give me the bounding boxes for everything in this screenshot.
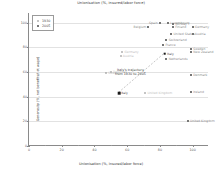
italy-trajectory-annotation: Italy's trajectory from 1930 to 2005 — [115, 68, 146, 76]
x-tick-minor — [45, 145, 46, 146]
data-point-united-kingdom[interactable] — [144, 92, 146, 94]
point-label-new-zealand: New Zealand — [193, 50, 213, 54]
legend-label: 1930 — [42, 19, 50, 23]
data-point-belgium[interactable] — [147, 26, 149, 28]
open-circle-icon — [35, 20, 40, 22]
point-label-italy: Italy — [167, 52, 174, 56]
gridline — [29, 121, 208, 122]
y-tick-label: 80 — [23, 45, 27, 49]
data-point-austria[interactable] — [192, 33, 194, 35]
legend-label: 2005 — [42, 24, 50, 28]
y-tick-mark — [27, 47, 29, 48]
x-tick-minor — [176, 145, 177, 146]
data-point-united-states[interactable] — [170, 33, 172, 35]
point-label-denmark: Denmark — [193, 73, 207, 77]
point-label-united-kingdom: United Kingdom — [190, 119, 215, 123]
chart-legend[interactable]: 19302005 — [32, 15, 54, 31]
point-label-france: France — [165, 43, 175, 47]
data-point-italy[interactable] — [164, 52, 167, 55]
y-tick-label: 0 — [25, 144, 27, 148]
point-label-ireland: Ireland — [193, 90, 204, 94]
y-tick-mark — [27, 23, 29, 24]
y-tick-mark — [27, 121, 29, 122]
x-tick-label: 60 — [125, 148, 129, 152]
point-label-switzerland: Switzerland — [169, 38, 187, 42]
point-label-netherlands: Netherlands — [169, 57, 188, 61]
point-label-austria: Austria — [123, 54, 134, 58]
y-tick-label: 20 — [23, 119, 27, 123]
data-point-denmark[interactable] — [190, 74, 192, 76]
x-tick-label: 100 — [189, 148, 195, 152]
data-point-switzerland[interactable] — [165, 39, 167, 41]
data-point-ireland[interactable] — [190, 91, 192, 93]
x-tick-label: 80 — [158, 148, 162, 152]
data-point-italy[interactable] — [118, 92, 121, 95]
y-tick-label: 60 — [23, 70, 27, 74]
data-point-austria[interactable] — [120, 55, 122, 57]
open-square-icon — [35, 25, 40, 27]
point-label-belgium: Belgium — [134, 25, 147, 29]
x-axis-label: Unionisation (%, insured/labor force) — [0, 162, 222, 166]
data-point-germany[interactable] — [121, 51, 123, 53]
data-point-new-zealand[interactable] — [190, 51, 192, 53]
x-tick-label: 20 — [60, 148, 64, 152]
x-tick-minor — [78, 145, 79, 146]
data-point-sweden[interactable] — [190, 48, 192, 50]
data-point-sweden[interactable] — [105, 72, 107, 74]
x-tick-minor — [111, 145, 112, 146]
gridline — [29, 97, 208, 98]
legend-item-2005[interactable]: 2005 — [35, 23, 50, 28]
x-tick-label: 0 — [28, 148, 30, 152]
y-tick-mark — [27, 97, 29, 98]
y-tick-mark — [27, 72, 29, 73]
data-point-finland[interactable] — [172, 26, 174, 28]
y-tick-label: 40 — [23, 95, 27, 99]
point-label-spain: Spain — [149, 21, 158, 25]
plot-area: 020406080100 020406080100 ItalyUnited Ki… — [28, 13, 208, 146]
chart-figure: Unionisation (%, insured/labor force) Ge… — [0, 0, 222, 177]
point-label-finland: Finland — [175, 25, 186, 29]
data-point-luxembourg[interactable] — [167, 22, 169, 24]
point-label-austria: Austria — [195, 32, 206, 36]
point-label-germany: Germany — [195, 25, 209, 29]
point-label-italy: Italy — [121, 91, 128, 95]
data-point-spain[interactable] — [159, 22, 161, 24]
data-point-netherlands[interactable] — [165, 58, 167, 60]
x-tick-minor — [144, 145, 145, 146]
x-tick-label: 40 — [92, 148, 96, 152]
gridline — [29, 47, 208, 48]
y-tick-label: 100 — [21, 21, 27, 25]
point-label-united-kingdom: United Kingdom — [147, 91, 172, 95]
data-point-united-kingdom[interactable] — [187, 120, 189, 122]
annotation-line-2: from 1930 to 2005 — [115, 72, 146, 76]
data-point-france[interactable] — [162, 44, 164, 46]
chart-title: Unionisation (%, insured/labor force) — [0, 1, 222, 5]
data-point-germany[interactable] — [192, 26, 194, 28]
